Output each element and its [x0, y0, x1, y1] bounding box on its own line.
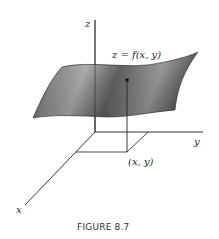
- surface: [33, 52, 198, 118]
- x-axis-label: x: [16, 204, 22, 215]
- z-axis-label: z: [84, 18, 91, 29]
- figure-caption: FIGURE 8.7: [77, 222, 130, 232]
- x-axis: [25, 132, 95, 205]
- xy-parallelogram: [76, 132, 148, 152]
- figure-diagram: z z = f(x, y) y (x, y) x FIGURE 8.7: [0, 0, 219, 239]
- surface-label: z = f(x, y): [111, 49, 161, 60]
- point-label: (x, y): [128, 156, 154, 167]
- y-axis-label: y: [193, 136, 200, 147]
